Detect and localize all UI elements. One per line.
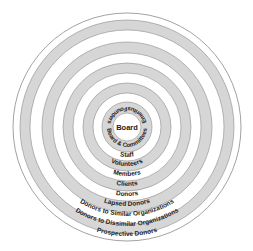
ring-label-staff: Staff [120, 150, 136, 158]
concentric-donor-diagram: Staff Volunteers Members Clients Donors … [0, 0, 253, 251]
ring-label-clients: Clients [116, 179, 138, 187]
center-label-board: Board [116, 123, 138, 132]
ring-label-donors: Donors [116, 189, 139, 197]
